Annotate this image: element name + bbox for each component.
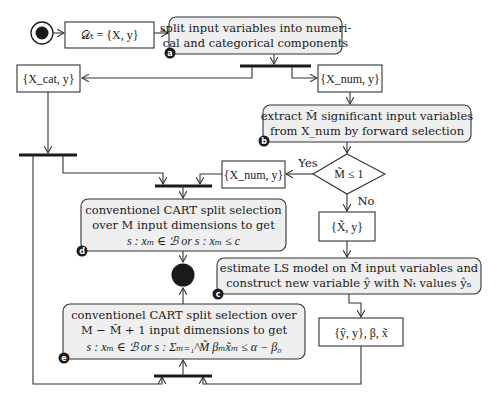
action-c-line2: construct new variable ŷ with Nₜ values … xyxy=(226,276,472,290)
svg-text:d: d xyxy=(79,247,85,256)
action-a-split: split input variables into numeri- cal a… xyxy=(160,17,352,59)
action-c-line1: estimate LS model on M̃ input variables … xyxy=(220,261,479,275)
dataset-label: 𝒟ₜ = {X, y} xyxy=(81,28,139,42)
action-a-line2: cal and categorical components xyxy=(163,36,349,50)
numerical-label: {X_num, y} xyxy=(320,72,380,86)
no-label: No xyxy=(358,194,375,208)
edge-numyes-to-join xyxy=(200,174,222,184)
yes-label: Yes xyxy=(297,156,317,170)
action-b-line1: extract M̃ significant input variables xyxy=(261,109,473,123)
activity-diagram: 𝒟ₜ = {X, y} split input variables into n… xyxy=(0,0,496,402)
numerical-yes-label: {X_num, y} xyxy=(224,168,284,182)
action-e-line1: conventionel CART split selection over xyxy=(71,308,297,322)
numerical-yes-node: {X_num, y} xyxy=(222,161,285,188)
start-node xyxy=(31,22,53,44)
decision-condition: M̃ ≤ 1 xyxy=(334,167,363,181)
action-b-extract: extract M̃ significant input variables f… xyxy=(259,105,474,147)
svg-text:c: c xyxy=(216,290,221,299)
action-e-line2: M − M̃ + 1 input dimensions to get xyxy=(81,323,288,337)
action-d-cart: conventionel CART split selection over M… xyxy=(77,199,287,257)
svg-text:b: b xyxy=(261,137,267,146)
result-node: {ŷ, y}, β, x̃ xyxy=(319,318,403,346)
edge-c-to-result xyxy=(349,294,361,317)
svg-text:e: e xyxy=(61,354,67,363)
action-b-line2: from X_num by forward selection xyxy=(270,124,465,138)
numerical-node: {X_num, y} xyxy=(318,65,382,92)
selected-label: {X̃, y} xyxy=(331,220,363,234)
decision-node: M̃ ≤ 1 xyxy=(313,154,385,194)
action-e-cart-extended: conventionel CART split selection over M… xyxy=(59,304,306,364)
dataset-node: 𝒟ₜ = {X, y} xyxy=(65,22,154,48)
selected-node: {X̃, y} xyxy=(319,212,375,241)
action-a-line1: split input variables into numeri- xyxy=(160,21,352,35)
action-d-line2: over M input dimensions to get xyxy=(92,218,275,232)
categorical-label: {X_cat, y} xyxy=(22,72,74,86)
action-d-line1: conventionel CART split selection xyxy=(85,203,282,217)
edge-fork2-to-join xyxy=(63,155,163,184)
action-d-line3: s : xₘ ∈ ℬ or s : xₘ ≤ c xyxy=(127,234,241,248)
result-label: {ŷ, y}, β, x̃ xyxy=(334,326,388,340)
edge-fork-to-categorical xyxy=(82,66,252,78)
action-c-estimate: estimate LS model on M̃ input variables … xyxy=(213,258,482,300)
categorical-node: {X_cat, y} xyxy=(17,65,80,92)
edge-fork-to-numerical xyxy=(292,66,317,78)
action-e-line3: s : xₘ ∈ ℬ or s : Σₘ₌₁^M̃ βₘx̃ₘ ≤ α − β₀ xyxy=(87,340,282,354)
end-node xyxy=(172,264,195,287)
svg-text:a: a xyxy=(167,49,172,58)
